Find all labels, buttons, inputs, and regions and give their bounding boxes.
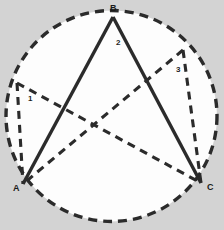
diagram-canvas: A B C 1 2 3 (0, 0, 224, 230)
vertex-label-b: B (110, 3, 117, 13)
vertex-label-a: A (13, 183, 20, 193)
geometry-figure: A B C 1 2 3 (0, 0, 224, 230)
angle-label-3: 3 (176, 65, 181, 74)
vertex-label-c: C (207, 182, 214, 192)
angle-label-1: 1 (28, 94, 33, 103)
angle-label-2: 2 (116, 38, 121, 47)
